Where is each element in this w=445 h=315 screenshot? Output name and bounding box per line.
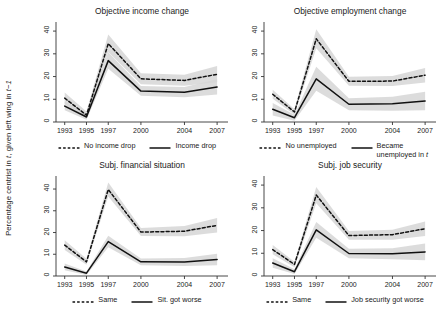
y-tick-label: 20 <box>40 72 52 82</box>
y-tick-label: 10 <box>40 249 52 259</box>
figure-root: Percentage centrist in t, given left win… <box>0 0 445 315</box>
x-tick-label: 2007 <box>413 127 437 134</box>
plot-area <box>56 22 230 130</box>
legend-label: Became unemployed in t <box>377 141 431 159</box>
legend-dashed-line-icon <box>266 300 288 304</box>
panel-legend: SameSit. got worse <box>44 295 230 304</box>
legend-label: Job security got worse <box>351 295 424 304</box>
y-axis-title: Percentage centrist in t, given left win… <box>4 80 13 236</box>
legend-label: No income drop <box>84 141 136 150</box>
x-tick-label: 2000 <box>129 127 153 134</box>
y-tick-label: 30 <box>40 49 52 59</box>
x-tick-label: 2007 <box>413 281 437 288</box>
legend-label: Same <box>292 295 311 304</box>
x-tick-label: 1995 <box>74 127 98 134</box>
legend-dashed-line-icon <box>72 300 94 304</box>
x-tick-label: 1995 <box>74 281 98 288</box>
y-tick-label: 0 <box>40 117 52 127</box>
y-tick-label: 20 <box>248 226 260 236</box>
y-tick-label: 10 <box>248 94 260 104</box>
x-tick-label: 1993 <box>53 127 77 134</box>
confidence-band-1 <box>65 183 217 265</box>
panel-title: Subj. financial situation <box>56 160 228 170</box>
y-tick-label: 40 <box>40 184 52 194</box>
x-tick-label: 2004 <box>172 127 196 134</box>
y-tick-label: 10 <box>40 94 52 104</box>
legend-label: Same <box>98 295 117 304</box>
y-tick-label: 20 <box>248 72 260 82</box>
legend-item-2: Income drop <box>149 141 216 150</box>
confidence-band-1 <box>65 35 217 119</box>
y-tick-label: 10 <box>248 248 260 258</box>
legend-label: No unemployed <box>285 141 336 150</box>
x-tick-label: 2004 <box>380 281 404 288</box>
legend-dashed-line-icon <box>259 146 281 150</box>
y-tick-label: 0 <box>40 271 52 281</box>
panel-title: Subj. job security <box>264 160 436 170</box>
legend-item-2: Sit. got worse <box>131 295 201 304</box>
x-tick-label: 2000 <box>337 281 361 288</box>
x-tick-label: 2007 <box>205 281 229 288</box>
legend-item-1: Same <box>72 295 117 304</box>
legend-item-2: Job security got worse <box>325 295 424 304</box>
x-tick-label: 1993 <box>261 281 285 288</box>
legend-label: Sit. got worse <box>157 295 201 304</box>
legend-label: Income drop <box>175 141 216 150</box>
panel-top-right: Objective employment change0102030401993… <box>232 6 440 158</box>
x-tick-label: 1997 <box>96 127 120 134</box>
legend-solid-line-icon <box>351 146 373 150</box>
x-tick-label: 1995 <box>282 281 306 288</box>
panel-title: Objective income change <box>56 6 228 16</box>
x-tick-label: 1997 <box>96 281 120 288</box>
y-tick-label: 40 <box>248 180 260 190</box>
y-tick-label: 40 <box>248 26 260 36</box>
x-tick-label: 1997 <box>304 281 328 288</box>
panel-bottom-left: Subj. financial situation010203040199319… <box>16 160 224 312</box>
plot-area <box>264 176 438 284</box>
x-tick-label: 1993 <box>53 281 77 288</box>
x-tick-label: 2000 <box>337 127 361 134</box>
x-tick-label: 1993 <box>261 127 285 134</box>
plot-area <box>56 176 230 284</box>
x-tick-label: 2000 <box>129 281 153 288</box>
y-tick-label: 30 <box>40 206 52 216</box>
panel-legend: No unemployedBecame unemployed in t <box>252 141 438 159</box>
y-tick-label: 20 <box>40 228 52 238</box>
panel-legend: No income dropIncome drop <box>44 141 230 150</box>
legend-item-1: No income drop <box>58 141 136 150</box>
legend-item-1: Same <box>266 295 311 304</box>
y-tick-label: 40 <box>40 26 52 36</box>
plot-area <box>264 22 438 130</box>
legend-solid-line-icon <box>325 300 347 304</box>
legend-solid-line-icon <box>149 146 171 150</box>
x-tick-label: 2004 <box>380 127 404 134</box>
x-tick-label: 2007 <box>205 127 229 134</box>
y-tick-label: 30 <box>248 49 260 59</box>
y-tick-label: 0 <box>248 271 260 281</box>
panel-bottom-right: Subj. job security0102030401993199519972… <box>232 160 440 312</box>
y-tick-label: 30 <box>248 203 260 213</box>
panel-top-left: Objective income change01020304019931995… <box>16 6 224 158</box>
legend-item-2: Became unemployed in t <box>351 141 431 159</box>
x-tick-label: 2004 <box>172 281 196 288</box>
panel-title: Objective employment change <box>264 6 436 16</box>
y-tick-label: 0 <box>248 117 260 127</box>
y-axis-title-container: Percentage centrist in t, given left win… <box>0 0 16 315</box>
panel-legend: SameJob security got worse <box>252 295 438 304</box>
legend-item-1: No unemployed <box>259 141 336 150</box>
legend-solid-line-icon <box>131 300 153 304</box>
legend-dashed-line-icon <box>58 146 80 150</box>
x-tick-label: 1995 <box>282 127 306 134</box>
x-tick-label: 1997 <box>304 127 328 134</box>
